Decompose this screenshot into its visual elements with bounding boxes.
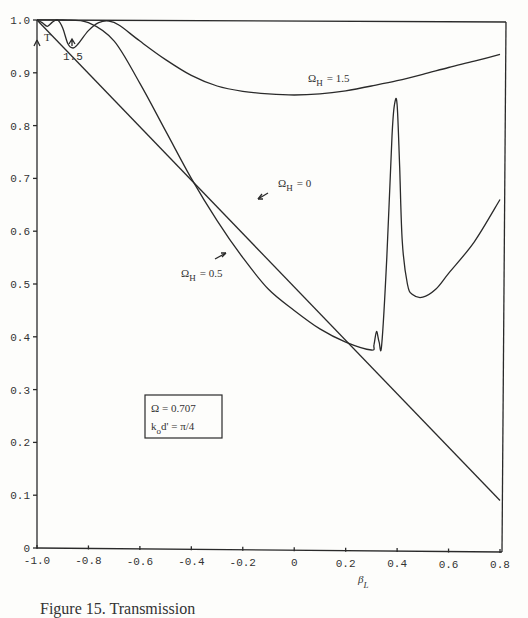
curve-omega-h-0-5: [37, 20, 500, 351]
subscript-h: H: [189, 273, 196, 283]
right-border: [502, 22, 506, 552]
x-tick-label: -0.4: [178, 556, 205, 568]
label-omega-h-0: ΩH= 0: [258, 177, 312, 199]
svg-text:ΩH= 0: ΩH= 0: [278, 177, 312, 193]
y-tick-label: 0.8: [10, 121, 30, 133]
subscript-l: L: [362, 580, 368, 590]
y-tick-label: 0.7: [10, 173, 30, 185]
y-tick-label: 0.2: [10, 437, 30, 449]
axes: [37, 20, 506, 552]
x-axis: [37, 548, 502, 552]
x-tick-label: 0: [291, 557, 298, 569]
omega-h-value: = 1.5: [327, 72, 350, 84]
curve-omega-h-0: [37, 20, 500, 501]
parameter-box: Ω = 0.707 kod' = π/4: [145, 395, 222, 438]
omega-h-value: = 0: [297, 177, 312, 189]
x-tick-label: -1.0: [24, 555, 50, 567]
y-tick-label: 0.9: [10, 68, 30, 80]
curve-omega-h-1-5: [37, 20, 500, 95]
subscript-h: H: [286, 183, 293, 193]
x-tick-label: 0.8: [490, 559, 510, 571]
y-ticks: 00.10.20.30.40.50.60.70.80.91.0: [10, 15, 37, 555]
y-tick-label: 1.0: [10, 15, 30, 27]
x-tick-label: -0.8: [75, 555, 101, 567]
label-omega-h-1-5: ΩH= 1.5: [308, 72, 350, 88]
omega-symbol: Ω: [278, 177, 286, 189]
y-tick-label: 0.1: [10, 490, 30, 502]
x-axis-label: βL: [357, 573, 369, 590]
x-tick-label: -0.2: [230, 557, 256, 569]
dip-value-label: 1.5: [63, 51, 83, 63]
x-tick-label: 0.4: [387, 558, 407, 570]
y-tick-label: 0.5: [10, 279, 30, 291]
svg-text:ΩH= 0.5: ΩH= 0.5: [181, 267, 223, 283]
y-tick-label: 0.4: [10, 332, 30, 344]
svg-text:βL: βL: [357, 573, 369, 590]
omega-symbol: Ω: [181, 267, 189, 279]
arrow-up-icon: [69, 39, 75, 46]
svg-text:ΩH= 1.5: ΩH= 1.5: [308, 72, 350, 88]
x-tick-label: 0.2: [336, 558, 356, 570]
figure-caption: Figure 15. Transmission: [40, 600, 195, 618]
svg-text:kod' = π/4: kod' = π/4: [151, 420, 195, 436]
box-line-kd-value: d' = π/4: [161, 420, 195, 432]
y-tick-label: 0.6: [10, 226, 30, 238]
x-tick-label: -0.6: [127, 556, 153, 568]
curves: [37, 20, 500, 501]
box-line-omega: Ω = 0.707: [151, 402, 196, 414]
y-tick-label: 0.3: [10, 385, 30, 397]
subscript-h: H: [316, 78, 323, 88]
y-axis-label: T: [44, 31, 51, 43]
x-tick-label: 0.6: [439, 559, 459, 571]
label-omega-h-0-5: ΩH= 0.5: [181, 253, 226, 283]
omega-h-value: = 0.5: [200, 267, 223, 279]
y-tick-label: 0: [23, 543, 30, 555]
omega-symbol: Ω: [308, 72, 316, 84]
